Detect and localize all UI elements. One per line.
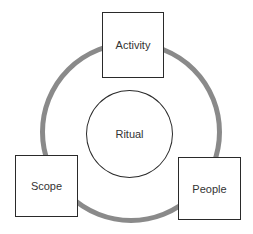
- node-scope-label: Scope: [31, 180, 62, 192]
- node-people-label: People: [192, 183, 226, 195]
- node-activity: Activity: [102, 12, 164, 78]
- center-circle-ritual: Ritual: [86, 90, 173, 178]
- center-label: Ritual: [115, 128, 143, 140]
- node-scope: Scope: [15, 155, 78, 217]
- node-people: People: [178, 157, 241, 220]
- node-activity-label: Activity: [116, 39, 151, 51]
